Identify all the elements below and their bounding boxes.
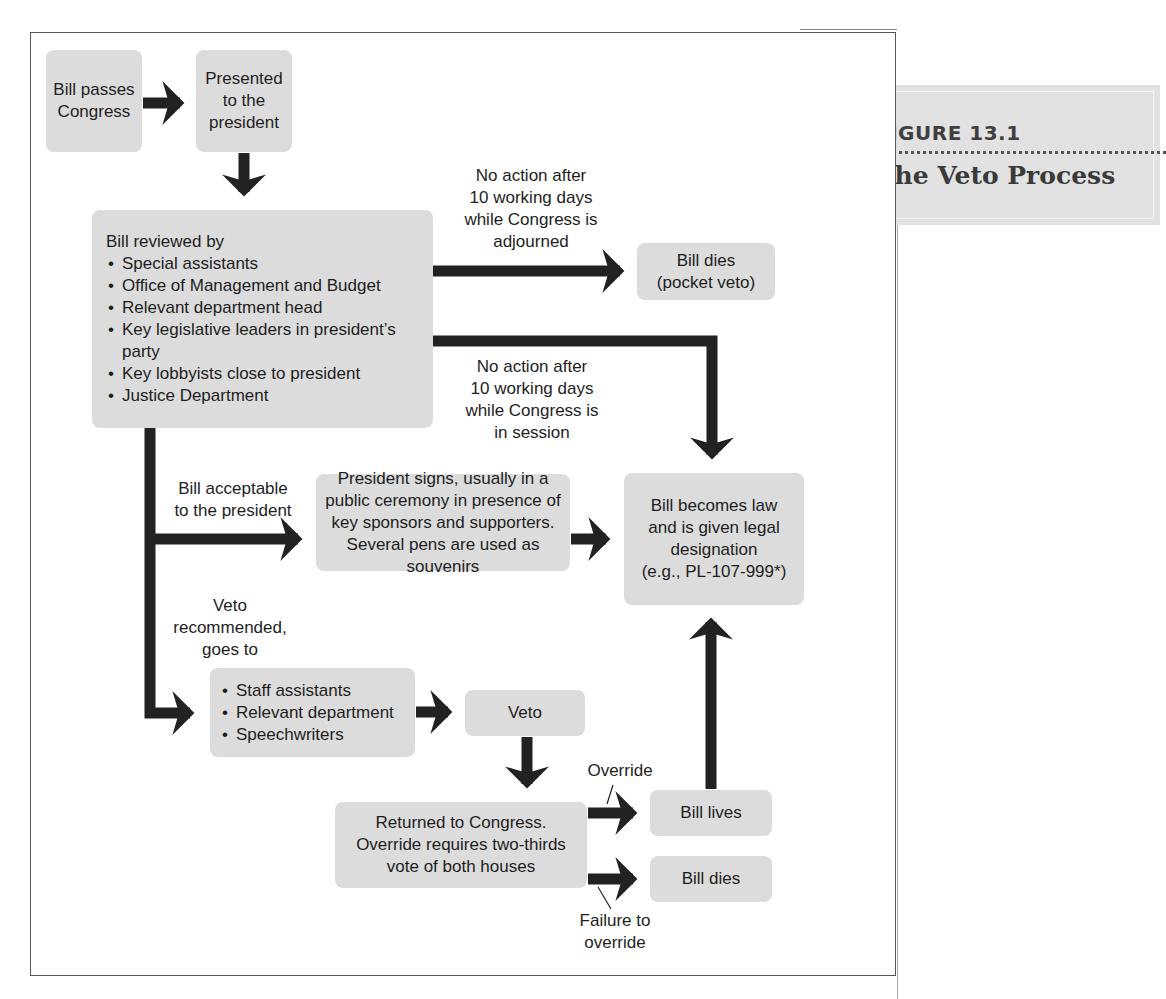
- pocket-veto-line1: Bill dies: [677, 250, 736, 272]
- acceptable-line1: Bill acceptable: [160, 478, 306, 500]
- adjourned-line3: while Congress is: [438, 209, 624, 231]
- node-presented: Presented to the president: [196, 50, 292, 152]
- adjourned-line1: No action after: [438, 165, 624, 187]
- edge-label-override: Override: [580, 760, 660, 782]
- returned-line2: Override requires two-thirds: [356, 834, 566, 856]
- edge-label-acceptable: Bill acceptable to the president: [160, 478, 306, 522]
- reviewed-item: Justice Department: [106, 385, 433, 407]
- adjourned-line2: 10 working days: [438, 187, 624, 209]
- returned-line3: vote of both houses: [387, 856, 535, 878]
- failure-line2: override: [570, 932, 660, 954]
- in-session-line4: in session: [438, 422, 626, 444]
- node-pocket-veto: Bill dies (pocket veto): [637, 243, 775, 300]
- node-reviewed: Bill reviewed by Special assistants Offi…: [92, 210, 433, 428]
- node-staff: Staff assistants Relevant department Spe…: [210, 668, 415, 757]
- in-session-line1: No action after: [438, 356, 626, 378]
- veto-recommended-line1: Veto: [160, 595, 300, 617]
- staff-item: Staff assistants: [220, 680, 415, 702]
- node-returned: Returned to Congress. Override requires …: [335, 802, 587, 888]
- adjourned-line4: adjourned: [438, 231, 624, 253]
- failure-line1: Failure to: [570, 910, 660, 932]
- override-text: Override: [580, 760, 660, 782]
- pocket-veto-line2: (pocket veto): [657, 272, 755, 294]
- staff-item: Relevant department: [220, 702, 415, 724]
- node-presented-text: Presented to the president: [201, 68, 287, 134]
- reviewed-item: Relevant department head: [106, 297, 433, 319]
- bill-lives-text: Bill lives: [680, 802, 741, 824]
- failure-leader-line: [598, 887, 611, 909]
- node-bill-passes: Bill passes Congress: [46, 50, 142, 152]
- acceptable-line2: to the president: [160, 500, 306, 522]
- edge-label-in-session: No action after 10 working days while Co…: [438, 356, 626, 444]
- staff-item: Speechwriters: [220, 724, 415, 746]
- edge-label-adjourned: No action after 10 working days while Co…: [438, 165, 624, 253]
- in-session-line2: 10 working days: [438, 378, 626, 400]
- edge-label-veto-recommended: Veto recommended, goes to: [160, 595, 300, 661]
- becomes-law-line1: Bill becomes law: [651, 495, 778, 517]
- reviewed-item: Office of Management and Budget: [106, 275, 433, 297]
- reviewed-heading: Bill reviewed by: [106, 231, 433, 253]
- reviewed-item: Key legislative leaders in president’s p…: [106, 319, 433, 363]
- edge-label-failure: Failure to override: [570, 910, 660, 954]
- veto-recommended-line2: recommended,: [160, 617, 300, 639]
- node-bill-passes-text: Bill passes Congress: [51, 79, 137, 123]
- node-president-signs: President signs, usually in a public cer…: [316, 474, 570, 571]
- reviewed-item: Special assistants: [106, 253, 433, 275]
- becomes-law-line2: and is given legal: [648, 517, 779, 539]
- node-bill-lives: Bill lives: [650, 790, 772, 836]
- node-bill-dies: Bill dies: [650, 856, 772, 902]
- reviewed-list: Special assistants Office of Management …: [106, 253, 433, 407]
- president-signs-text: President signs, usually in a public cer…: [322, 468, 564, 578]
- arrow-veto-recommended-to-staff: [150, 428, 190, 713]
- veto-text: Veto: [508, 702, 542, 724]
- staff-list: Staff assistants Relevant department Spe…: [220, 680, 415, 746]
- becomes-law-line4: (e.g., PL-107-999*): [642, 561, 787, 583]
- veto-recommended-line3: goes to: [160, 639, 300, 661]
- becomes-law-line3: designation: [671, 539, 758, 561]
- returned-line1: Returned to Congress.: [375, 812, 546, 834]
- in-session-line3: while Congress is: [438, 400, 626, 422]
- override-leader-line: [607, 785, 613, 804]
- bill-dies-text: Bill dies: [682, 868, 741, 890]
- reviewed-item: Key lobbyists close to president: [106, 363, 433, 385]
- node-becomes-law: Bill becomes law and is given legal desi…: [624, 473, 804, 605]
- node-veto: Veto: [465, 690, 585, 736]
